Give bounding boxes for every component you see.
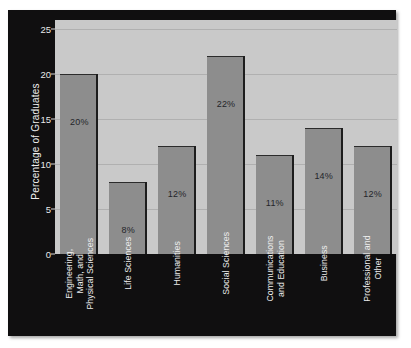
bar-top-edge	[207, 56, 243, 57]
bar-value-label: 14%	[305, 171, 343, 181]
x-axis-tick-label-text: Professional andOther	[362, 235, 383, 301]
x-axis-tick-label-text: Engineering,Math, andPhysical Sciences	[64, 238, 96, 310]
y-axis-tick-label: 15	[40, 114, 51, 125]
x-axis-tick-label: Engineering,Math, andPhysical Sciences	[55, 256, 104, 342]
bar-value-label: 20%	[60, 117, 98, 127]
y-axis-tick-label: 10	[40, 159, 51, 170]
x-axis-tick-label: Social Sciences	[202, 256, 251, 342]
x-axis-tick-labels: Engineering,Math, andPhysical SciencesLi…	[55, 256, 397, 342]
plot-area: 20%8%12%22%11%14%12%	[55, 20, 397, 254]
y-axis-tick-label: 20	[40, 69, 51, 80]
figure: Percentage of Graduates 0510152025 20%8%…	[0, 0, 411, 348]
bar-top-edge	[305, 128, 341, 129]
bar-top-edge	[256, 155, 292, 156]
x-axis-tick-label-text: Social Sciences	[221, 232, 232, 295]
bar-top-edge	[354, 146, 390, 147]
bar-value-label: 11%	[256, 198, 294, 208]
x-axis-tick-label-text: Humanities	[172, 241, 183, 285]
x-axis-tick-label-text: Communicationsand Education	[264, 235, 285, 301]
bar-top-edge	[158, 146, 194, 147]
y-axis: Percentage of Graduates 0510152025	[8, 20, 55, 254]
bar[interactable]	[60, 74, 98, 254]
y-axis-tick-label: 25	[40, 24, 51, 35]
x-axis-tick-label: Life Sciences	[104, 256, 153, 342]
bar-top-edge	[60, 74, 96, 75]
chart-canvas: Percentage of Graduates 0510152025 20%8%…	[8, 10, 396, 336]
bar[interactable]	[207, 56, 245, 254]
bar[interactable]	[158, 146, 196, 254]
x-axis-tick-label-text: Life Sciences	[123, 237, 134, 290]
bar-top-edge	[109, 182, 145, 183]
bar-value-label: 12%	[158, 189, 196, 199]
y-axis-title: Percentage of Graduates	[30, 42, 41, 242]
bar-value-label: 12%	[354, 189, 392, 199]
x-axis-tick-label: Communicationsand Education	[250, 256, 299, 342]
x-axis-tick-label: Business	[299, 256, 348, 342]
x-axis-tick-label-text: Business	[318, 245, 329, 281]
x-axis-tick-label: Professional andOther	[348, 256, 397, 342]
bar-value-label: 22%	[207, 99, 245, 109]
gridline	[55, 29, 397, 30]
bar-value-label: 8%	[109, 225, 147, 235]
bar[interactable]	[305, 128, 343, 254]
x-axis-tick-label: Humanities	[153, 256, 202, 342]
